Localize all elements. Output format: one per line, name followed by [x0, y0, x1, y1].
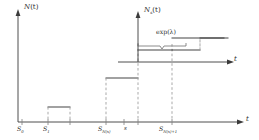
primary-y-axis-arrow [16, 9, 21, 16]
figure-canvas [0, 0, 259, 140]
tick-label-S1-sub: 1 [47, 129, 49, 134]
tick-label-S0: S0 [17, 126, 24, 134]
exp-lambda-brace [138, 43, 186, 49]
brace-path [138, 43, 186, 49]
secondary-y-axis-label: Ns(t) [144, 7, 161, 16]
tick-label-S0-sub: 0 [21, 129, 23, 134]
tick-label-SNs-sub: N(s) [102, 129, 110, 134]
exp-lambda-arg: (λ) [167, 28, 176, 35]
primary-y-axis-arg: (t) [30, 3, 38, 11]
exp-lambda-label: exp(λ) [156, 29, 176, 35]
secondary-y-axis-arg: (t) [152, 6, 160, 14]
secondary-y-axis-arrow [136, 11, 141, 18]
tick-label-s: s [124, 126, 127, 132]
primary-axes [16, 9, 244, 125]
tick-label-S1: S1 [43, 126, 50, 134]
dashed-jump-lines [48, 44, 172, 122]
tick-label-SNs: SN(s) [98, 126, 111, 134]
secondary-step-function [172, 38, 228, 50]
secondary-x-axis-label: t [234, 56, 237, 63]
secondary-x-axis-arrow [227, 60, 234, 65]
exp-lambda-fn: exp [156, 28, 167, 35]
tick-label-SNs1: SN(s)+1 [159, 126, 177, 134]
primary-x-axis-label: t [246, 116, 249, 123]
primary-step-function [48, 38, 224, 107]
tick-label-SNs1-sub: N(s)+1 [163, 129, 177, 134]
figure-container: N(t) Ns(t) exp(λ) t t S0 S1 SN(s) s SN(s… [0, 0, 259, 140]
primary-y-axis-label: N(t) [24, 4, 38, 11]
primary-x-axis-arrow [237, 120, 244, 125]
